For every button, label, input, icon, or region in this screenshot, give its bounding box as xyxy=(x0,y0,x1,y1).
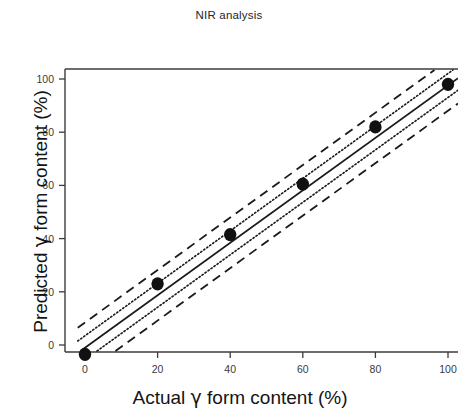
data-point xyxy=(79,348,91,361)
y-axis-title-gamma-symbol: γ xyxy=(29,236,51,247)
plot-area xyxy=(0,0,458,417)
x-tick-label: 60 xyxy=(297,363,309,375)
data-point xyxy=(297,177,309,190)
data-point xyxy=(224,228,236,241)
x-tick-label: 100 xyxy=(439,363,457,375)
series-line-dotted-3 xyxy=(97,90,458,351)
x-tick-label: 40 xyxy=(224,363,236,375)
data-point xyxy=(151,277,163,290)
x-axis-title: Actual γ form content (%) xyxy=(40,386,440,409)
x-tick-label: 80 xyxy=(370,363,382,375)
axis-ticks xyxy=(59,79,448,358)
chart-figure: NIR analysis 020406080100 020406080100 P… xyxy=(0,0,458,417)
x-tick-label: 0 xyxy=(82,363,88,375)
data-points xyxy=(79,78,454,361)
series-line-dotted-2 xyxy=(78,70,453,341)
series-line-dashed-4 xyxy=(78,70,435,328)
data-point xyxy=(369,120,381,133)
data-point xyxy=(442,78,454,91)
x-tick-label: 20 xyxy=(152,363,164,375)
series-line-solid-1 xyxy=(80,78,458,351)
series-line-dashed-5 xyxy=(115,104,458,351)
plot-lines xyxy=(78,70,458,351)
plot-frame xyxy=(65,69,458,352)
x-axis-title-gamma-symbol: γ xyxy=(191,386,202,408)
y-axis-title: Predicted γ form content (%) xyxy=(29,62,52,362)
